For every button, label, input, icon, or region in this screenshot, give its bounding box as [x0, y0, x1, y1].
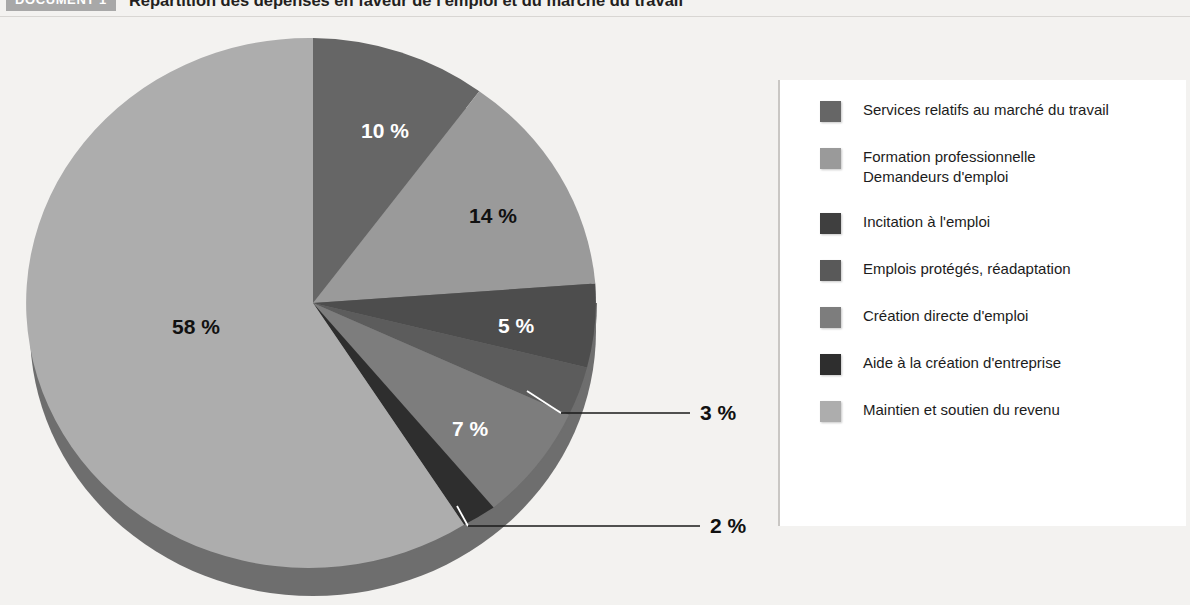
document-header: DOCUMENT 1 Répartition des dépenses en f…	[0, 0, 683, 14]
page-root: DOCUMENT 1 Répartition des dépenses en f…	[0, 0, 1190, 605]
chart-legend: Services relatifs au marché du travail F…	[778, 80, 1186, 526]
pie-label-5: 5 %	[498, 314, 535, 337]
legend-item-aide-a-la-creation-d-entreprise[interactable]: Aide à la création d'entreprise	[820, 353, 1178, 375]
legend-swatch-icon	[820, 260, 841, 281]
legend-item-label: Incitation à l'emploi	[863, 212, 990, 232]
pie-callout-label-3: 3 %	[700, 401, 737, 424]
legend-item-label: Maintien et soutien du revenu	[863, 400, 1060, 420]
legend-item-label: Création directe d'emploi	[863, 306, 1028, 326]
legend-swatch-icon	[820, 213, 841, 234]
legend-swatch-icon	[820, 401, 841, 422]
legend-item-label: Formation professionnelle Demandeurs d'e…	[863, 147, 1036, 187]
pie-callout-label-2: 2 %	[710, 514, 747, 537]
legend-item-label-line1: Formation professionnelle	[863, 148, 1036, 165]
pie-label-7: 7 %	[452, 417, 489, 440]
pie-chart: 10 % 14 % 5 % 7 % 58 % 3 % 2 %	[0, 18, 770, 605]
legend-item-emplois-proteges-readaptation[interactable]: Emplois protégés, réadaptation	[820, 259, 1178, 281]
legend-item-services-relatifs-au-marche-du-travail[interactable]: Services relatifs au marché du travail	[820, 100, 1178, 122]
pie-label-10: 10 %	[361, 119, 409, 142]
pie-label-14: 14 %	[469, 204, 517, 227]
legend-swatch-icon	[820, 101, 841, 122]
pie-slices	[26, 38, 596, 568]
legend-item-label: Emplois protégés, réadaptation	[863, 259, 1071, 279]
legend-swatch-icon	[820, 354, 841, 375]
legend-item-formation-professionnelle[interactable]: Formation professionnelle Demandeurs d'e…	[820, 147, 1178, 187]
page-title: Répartition des dépenses en faveur de l'…	[129, 0, 683, 8]
legend-item-label: Aide à la création d'entreprise	[863, 353, 1061, 373]
pie-label-58: 58 %	[172, 315, 220, 338]
legend-item-incitation-a-l-emploi[interactable]: Incitation à l'emploi	[820, 212, 1178, 234]
legend-item-maintien-et-soutien-du-revenu[interactable]: Maintien et soutien du revenu	[820, 400, 1178, 422]
legend-list: Services relatifs au marché du travail F…	[820, 100, 1178, 447]
header-divider	[0, 16, 1190, 17]
pie-chart-svg: 10 % 14 % 5 % 7 % 58 % 3 % 2 %	[0, 18, 770, 605]
legend-item-label: Services relatifs au marché du travail	[863, 100, 1109, 120]
legend-item-creation-directe-d-emploi[interactable]: Création directe d'emploi	[820, 306, 1178, 328]
legend-swatch-icon	[820, 148, 841, 169]
document-badge: DOCUMENT 1	[6, 0, 116, 11]
legend-swatch-icon	[820, 307, 841, 328]
legend-item-label-line2: Demandeurs d'emploi	[863, 167, 1036, 187]
